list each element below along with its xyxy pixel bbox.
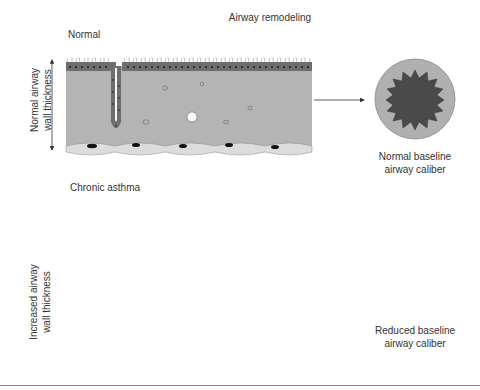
- caption-asthma-line1: Reduced baseline: [360, 324, 470, 337]
- caption-normal-line2: airway caliber: [360, 163, 470, 176]
- caption-asthma-line2: airway caliber: [360, 337, 470, 350]
- caption-normal-line1: Normal baseline: [360, 150, 470, 163]
- bottom-divider: [0, 385, 480, 386]
- normal-airway-cross-section: [375, 59, 455, 139]
- normal-airway-wall: [66, 57, 312, 155]
- normal-smooth-muscle: [66, 143, 312, 155]
- caption-normal: Normal baseline airway caliber: [360, 150, 470, 176]
- caption-asthma: Reduced baseline airway caliber: [360, 324, 470, 350]
